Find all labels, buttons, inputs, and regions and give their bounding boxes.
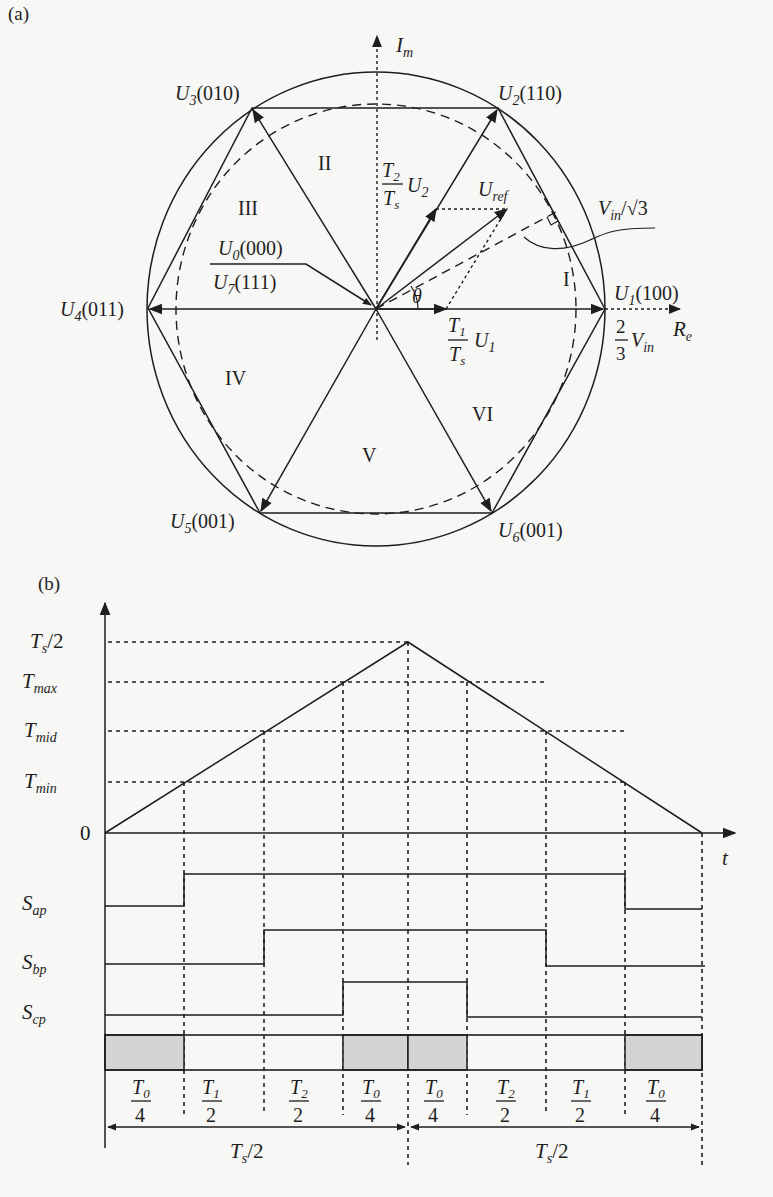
- panel-b-timing-diagram: (b) t Ts/2 Tmax Tmid Tmin 0 Sap Sbp: [22, 573, 735, 1166]
- construction-line-diagonal: [446, 212, 505, 309]
- label-sap: Sap: [22, 891, 47, 918]
- svg-text:4: 4: [365, 1104, 375, 1126]
- interval-label-3: T2 2: [289, 1076, 309, 1126]
- zero-interval-box-1: [105, 1035, 184, 1070]
- radius-leader-line: [524, 228, 655, 249]
- inscribed-radius-line: [376, 212, 556, 309]
- ytick-tmax: Tmax: [22, 669, 58, 696]
- interval-label-5: T0 4: [424, 1076, 444, 1126]
- svg-text:T1: T1: [572, 1076, 590, 1101]
- svg-text:U2: U2: [407, 174, 428, 200]
- signal-sap: [105, 874, 702, 909]
- panel-b-label: (b): [38, 573, 60, 595]
- time-axis-label: t: [722, 846, 729, 870]
- signal-sbp: [105, 930, 705, 966]
- two-thirds-vin-label: 2 3 Vin: [615, 316, 654, 364]
- svg-text:T1: T1: [448, 314, 466, 339]
- ytick-tmin: Tmin: [24, 769, 57, 796]
- sector-iii: III: [238, 197, 258, 219]
- svg-text:T2: T2: [497, 1076, 515, 1101]
- zero-interval-box-3: [408, 1035, 467, 1070]
- uref-vector: [376, 209, 507, 309]
- label-u6: U6(001): [498, 519, 563, 545]
- theta-label: θ: [412, 285, 422, 307]
- svg-text:T0: T0: [132, 1076, 150, 1101]
- zero-interval-box-4: [625, 1035, 702, 1070]
- svg-text:T2: T2: [382, 159, 400, 184]
- svg-text:4: 4: [650, 1104, 660, 1126]
- label-u0: U0(000): [218, 237, 283, 263]
- interval-label-4: T0 4: [361, 1076, 381, 1126]
- ytick-ts-half: Ts/2: [30, 629, 63, 656]
- interval-label-1: T0 4: [131, 1076, 151, 1126]
- panel-a-label: (a): [8, 3, 29, 25]
- sector-i: I: [563, 268, 570, 290]
- ytick-zero: 0: [80, 821, 91, 845]
- interval-label-7: T1 2: [571, 1076, 591, 1126]
- interval-label-6: T2 2: [496, 1076, 516, 1126]
- label-u4: U4(011): [60, 298, 124, 324]
- svg-text:2: 2: [616, 316, 626, 337]
- label-u5: U5(001): [170, 510, 235, 536]
- svg-text:4: 4: [135, 1104, 145, 1126]
- imag-axis-label: Im: [395, 33, 413, 60]
- svg-text:2: 2: [500, 1104, 510, 1126]
- sector-v: V: [362, 444, 377, 466]
- uref-label: Uref: [478, 178, 510, 204]
- half-period-label-2: Ts/2: [535, 1139, 568, 1166]
- label-sbp: Sbp: [22, 950, 47, 977]
- t1-over-ts-u1-label: T1 Ts U1: [448, 314, 495, 368]
- vector-u5: [261, 309, 376, 511]
- svg-text:Vin: Vin: [631, 329, 654, 355]
- label-u1: U1(100): [614, 282, 679, 308]
- real-axis-label: Re: [672, 317, 692, 344]
- interval-label-2: T1 2: [202, 1076, 222, 1126]
- sector-iv: IV: [225, 367, 247, 389]
- svg-text:Ts: Ts: [383, 187, 399, 212]
- svg-text:2: 2: [293, 1104, 303, 1126]
- vin-over-sqrt3-label: Vin/√3: [598, 197, 648, 223]
- t2-component-vector: [376, 209, 436, 309]
- svg-text:T0: T0: [362, 1076, 380, 1101]
- label-scp: Scp: [22, 1000, 46, 1027]
- svpwm-figure: (a) Im Re θ: [0, 0, 773, 1197]
- svg-text:4: 4: [428, 1104, 438, 1126]
- interval-label-8: T0 4: [646, 1076, 666, 1126]
- label-u3: U3(010): [175, 82, 240, 108]
- triangular-carrier: [105, 642, 702, 833]
- svg-text:T0: T0: [647, 1076, 665, 1101]
- svg-text:T0: T0: [425, 1076, 443, 1101]
- ytick-tmid: Tmid: [24, 718, 58, 745]
- svg-text:Ts: Ts: [449, 343, 465, 368]
- svg-text:U1: U1: [474, 329, 495, 355]
- label-u2: U2(110): [498, 82, 562, 108]
- svg-text:T1: T1: [202, 1076, 220, 1101]
- svg-text:T2: T2: [290, 1076, 308, 1101]
- sector-ii: II: [318, 152, 331, 174]
- panel-a-space-vector-diagram: (a) Im Re θ: [8, 3, 692, 546]
- svg-text:3: 3: [616, 343, 626, 364]
- t2-over-ts-u2-label: T2 Ts U2: [382, 159, 428, 212]
- svg-text:2: 2: [575, 1104, 585, 1126]
- svg-text:2: 2: [206, 1104, 216, 1126]
- half-period-label-1: Ts/2: [230, 1139, 263, 1166]
- sector-vi: VI: [472, 403, 493, 425]
- zero-interval-box-2: [343, 1035, 408, 1070]
- label-u7: U7(111): [213, 271, 276, 297]
- signal-scp: [105, 982, 702, 1017]
